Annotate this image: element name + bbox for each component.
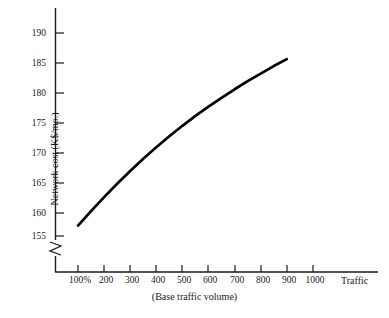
y-tick-label: 165 [26,178,46,188]
x-tick-label: 100% [69,275,91,285]
x-axis-end-label: Traffic [341,275,368,286]
y-tick-label: 170 [26,148,46,158]
y-tick-label: 190 [26,28,46,38]
x-tick-label: 900 [282,275,296,285]
x-tick-label: 500 [177,275,191,285]
x-tick-label: 200 [99,275,113,285]
y-tick-label: 180 [26,88,46,98]
y-tick-label: 155 [26,231,46,241]
network-cost-polyline [78,59,287,225]
x-tick-label: 800 [256,275,270,285]
x-axis-title: (Base traffic volume) [0,291,389,302]
y-tick-label: 160 [26,208,46,218]
x-tick-label: 400 [151,275,165,285]
y-tick-label: 185 [26,58,46,68]
x-tick-label: 600 [203,275,217,285]
y-axis-title: Network cost (K$/mo.) [49,112,60,205]
chart-figure: Network cost (K$/mo.) 190 185 180 175 17… [0,0,389,318]
x-tick-label: 300 [125,275,139,285]
y-tick-label: 175 [26,118,46,128]
x-tick-label: 700 [230,275,244,285]
x-tick-label: 1000 [306,275,325,285]
